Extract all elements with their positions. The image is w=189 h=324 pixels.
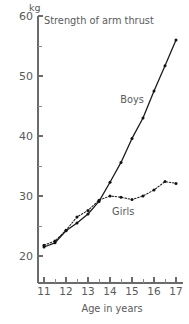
series-girls xyxy=(43,180,178,247)
data-point xyxy=(76,216,79,219)
chart-title: Strength of arm thrust xyxy=(44,15,154,26)
series-annotation-boys: Boys xyxy=(120,94,144,105)
series-annotation-girls: Girls xyxy=(112,206,134,217)
data-point xyxy=(109,195,112,198)
y-tick-label-50: 50 xyxy=(19,70,33,83)
data-point xyxy=(142,117,145,120)
x-axis-tick-labels: 11121314151617 xyxy=(37,285,182,297)
data-point xyxy=(131,137,134,140)
data-series-layer xyxy=(43,39,178,249)
y-tick-label-30: 30 xyxy=(19,190,33,203)
data-point xyxy=(43,244,46,247)
chart-container: 2030405060 11121314151617 kg Strength of… xyxy=(0,0,189,324)
x-tick-label-11: 11 xyxy=(37,285,50,297)
data-point xyxy=(142,195,145,198)
data-point xyxy=(175,39,178,42)
data-point xyxy=(153,189,156,192)
y-tick-label-20: 20 xyxy=(19,250,33,263)
data-point xyxy=(131,198,134,201)
data-point xyxy=(120,196,123,199)
data-point xyxy=(54,240,57,243)
data-point xyxy=(87,213,90,216)
y-tick-label-40: 40 xyxy=(19,130,33,143)
y-axis-group: 2030405060 xyxy=(19,10,43,283)
x-tick-label-12: 12 xyxy=(59,285,72,297)
y-axis-major-ticks xyxy=(38,16,43,256)
x-tick-label-13: 13 xyxy=(81,285,94,297)
x-axis-title: Age in years xyxy=(81,303,142,314)
x-axis-major-ticks xyxy=(44,277,176,283)
x-axis-group: 11121314151617 xyxy=(37,277,183,297)
y-axis-unit-label: kg xyxy=(29,2,41,13)
x-tick-label-16: 16 xyxy=(147,285,161,297)
data-point xyxy=(109,181,112,184)
data-point xyxy=(76,222,79,225)
data-point xyxy=(120,161,123,164)
data-point xyxy=(65,229,68,232)
data-point xyxy=(164,64,167,67)
series-boys xyxy=(43,39,178,249)
data-point xyxy=(98,199,101,202)
data-point xyxy=(175,182,178,185)
series-line-girls xyxy=(44,182,176,246)
data-point xyxy=(164,180,167,183)
y-axis-tick-labels: 2030405060 xyxy=(19,10,33,263)
data-point xyxy=(87,209,90,212)
series-line-boys xyxy=(44,40,176,247)
x-tick-label-15: 15 xyxy=(125,285,138,297)
x-tick-label-17: 17 xyxy=(169,285,182,297)
arm-thrust-line-chart: 2030405060 11121314151617 kg Strength of… xyxy=(0,0,189,324)
data-point xyxy=(153,90,156,93)
x-tick-label-14: 14 xyxy=(103,285,117,297)
